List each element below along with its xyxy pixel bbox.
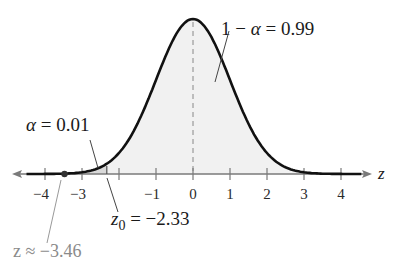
axis-label-z: z (377, 164, 385, 183)
normal-distribution-chart: −4 −3 −1 0 1 2 3 4 z 1 − α = 0.99 α = 0.… (0, 0, 404, 275)
non-rejection-area (27, 19, 362, 174)
annotation-z0: z0 = −2.33 (110, 208, 190, 233)
test-statistic-point (61, 171, 67, 177)
tick-label-3: 3 (300, 186, 308, 202)
tick-label-1: 1 (226, 186, 234, 202)
annotation-test-statistic: z ≈ −3.46 (13, 241, 82, 261)
tick-label-m1: −1 (144, 186, 160, 202)
tick-label-m4: −4 (33, 186, 49, 202)
tick-label-4: 4 (337, 186, 345, 202)
annotation-one-minus-alpha: 1 − α = 0.99 (221, 18, 314, 39)
leader-line-z-stat (47, 180, 61, 243)
tick-label-0: 0 (189, 186, 197, 202)
leader-line-z0 (107, 178, 118, 212)
tick-label-m3: −3 (70, 186, 86, 202)
tick-label-2: 2 (263, 186, 271, 202)
annotation-alpha: α = 0.01 (26, 114, 89, 135)
leader-line-alpha (90, 140, 98, 168)
